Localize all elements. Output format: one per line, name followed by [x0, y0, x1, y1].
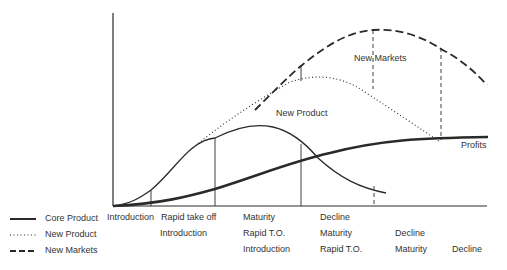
legend-label: Core Product [45, 213, 98, 223]
new-markets-curve-label: New Markets [354, 54, 407, 63]
core-product-curve [113, 126, 386, 206]
new-markets-curve [255, 30, 487, 110]
core-stage-rapid-take-off: Rapid take off [161, 213, 216, 222]
new-markets-stage-maturity: Maturity [395, 245, 427, 254]
new-markets-stage-introduction: Introduction [243, 245, 290, 254]
new-product-stage-introduction: Introduction [160, 229, 207, 238]
legend-label: New Product [45, 229, 97, 239]
dotted-line-icon [8, 230, 38, 239]
core-stage-maturity: Maturity [243, 213, 275, 222]
legend-core-product: Core Product [8, 213, 98, 223]
new-product-stage-decline: Decline [395, 229, 425, 238]
new-product-curve-label: New Product [276, 109, 328, 118]
new-markets-stage-rapid-to: Rapid T.O. [320, 245, 362, 254]
dashed-line-icon [8, 246, 38, 255]
solid-line-icon [8, 214, 38, 223]
profits-curve-label: Profits [461, 141, 487, 150]
new-markets-stage-decline: Decline [452, 245, 482, 254]
core-stage-decline: Decline [320, 213, 350, 222]
legend-new-markets: New Markets [8, 245, 98, 255]
new-product-stage-rapid-to: Rapid T.O. [243, 229, 285, 238]
legend-label: New Markets [45, 245, 98, 255]
core-stage-introduction: Introduction [107, 213, 154, 222]
new-product-stage-maturity: Maturity [320, 229, 352, 238]
legend-new-product: New Product [8, 229, 97, 239]
